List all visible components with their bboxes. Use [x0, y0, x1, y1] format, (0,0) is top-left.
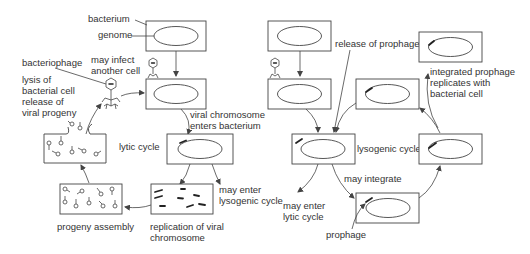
progeny-assembly-label: progeny assembly: [57, 221, 134, 232]
infected-cell: [146, 79, 206, 109]
may-integrate-label: may integrate: [344, 173, 402, 184]
another-cell-label: another cell: [91, 65, 140, 76]
release-prophage-label: release of prophage: [335, 38, 420, 49]
phage-icon: [148, 58, 158, 78]
may-enter-lysogenic-label-2: lysogenic cycle: [219, 195, 283, 206]
lysis-label-4: viral progeny: [22, 107, 77, 118]
bacterium-leader: [135, 20, 147, 25]
viral-chromosome-label: viral chromosome: [190, 109, 265, 120]
enters-bacterium-label: enters bacterium: [190, 120, 261, 131]
lytic-cycle-label: lytic cycle: [119, 141, 160, 152]
bacteriophage-icon: [102, 78, 120, 109]
integrated-prophage-label-2: replicates with: [430, 77, 490, 88]
arrow: [212, 164, 220, 184]
arrow: [125, 205, 151, 208]
replication-cell: [151, 184, 213, 214]
arrow: [181, 109, 189, 134]
may-enter-lytic-label-1: may enter: [283, 200, 325, 211]
arrow: [334, 50, 350, 132]
replication-label-1: replication of viral: [150, 221, 224, 232]
bacterium-cell-right: [268, 21, 331, 51]
lysing-cell: [44, 121, 106, 163]
lysogenic-cell-left: [292, 134, 355, 164]
infected-cell-right: [268, 79, 331, 109]
integrated-prophage-label-1: integrated prophage: [430, 66, 515, 77]
arrow: [121, 93, 144, 96]
arrow: [306, 109, 318, 132]
prophage-label: prophage: [326, 229, 366, 240]
arrow: [81, 165, 89, 183]
may-enter-lytic-label-2: lytic cycle: [283, 211, 324, 222]
lysis-label-3: release of: [22, 96, 64, 107]
arrow: [298, 164, 318, 192]
arrow: [180, 164, 190, 184]
bacteriophage-label: bacteriophage: [22, 57, 82, 68]
lysis-label-2: bacterial cell: [22, 85, 75, 96]
progeny-assembly-cell: [60, 184, 122, 214]
may-enter-lysogenic-label-1: may enter: [219, 184, 261, 195]
lysis-label-1: lysis of: [22, 74, 51, 85]
integrated-prophage-label-3: bacterial cell: [430, 88, 483, 99]
may-infect-label: may infect: [91, 54, 135, 65]
prophage-cell-mid: [356, 79, 419, 109]
injected-cell: [167, 134, 233, 164]
lysogenic-cycle-label: lysogenic cycle: [357, 143, 421, 154]
replication-label-2: chromosome: [150, 232, 205, 243]
arrow: [419, 166, 440, 198]
phage-life-cycle-diagram: bacterium genome bacteriophage may infec…: [0, 0, 530, 254]
prophage-cell-bottom: [356, 193, 419, 223]
bacterium-cell: [146, 21, 206, 51]
phage-icon-right: [270, 58, 280, 78]
prophage-cell-top: [419, 32, 482, 62]
arrow: [420, 108, 440, 133]
genome-label: genome: [98, 29, 132, 40]
lysogenic-cell-right: [419, 134, 482, 164]
bacterium-label: bacterium: [88, 13, 130, 24]
